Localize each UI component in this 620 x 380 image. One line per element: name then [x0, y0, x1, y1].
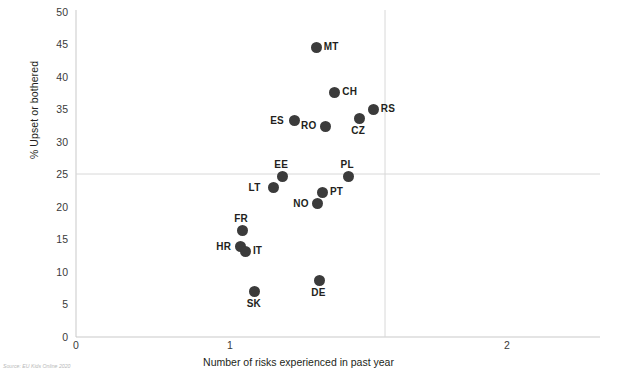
y-tick-10: 10: [34, 266, 68, 278]
data-point-rs[interactable]: [368, 104, 379, 115]
x-axis-label: Number of risks experienced in past year: [76, 356, 521, 368]
data-point-label-de: DE: [311, 287, 325, 298]
data-point-label-no: NO: [293, 198, 308, 209]
data-point-label-pl: PL: [341, 159, 354, 170]
data-point-pl[interactable]: [343, 171, 354, 182]
source-note: Source: EU Kids Online 2020: [3, 363, 70, 369]
data-point-de[interactable]: [314, 275, 325, 286]
data-point-sk[interactable]: [249, 286, 260, 297]
x-tick-0: 0: [61, 339, 91, 351]
y-tick-45: 45: [34, 38, 68, 50]
data-point-label-rs: RS: [381, 103, 395, 114]
data-point-label-mt: MT: [324, 41, 339, 52]
data-point-label-ro: RO: [301, 120, 316, 131]
data-point-label-es: ES: [270, 115, 284, 126]
data-point-label-sk: SK: [247, 298, 261, 309]
x-tick-1: 1: [215, 339, 245, 351]
y-tick-20: 20: [34, 201, 68, 213]
x-tick-2: 2: [492, 339, 522, 351]
data-point-ro[interactable]: [320, 121, 331, 132]
y-tick-30: 30: [34, 136, 68, 148]
y-tick-5: 5: [34, 298, 68, 310]
data-point-label-pt: PT: [330, 186, 343, 197]
data-point-mt[interactable]: [311, 42, 322, 53]
data-point-cz[interactable]: [354, 113, 365, 124]
data-point-label-ee: EE: [274, 159, 288, 170]
data-point-label-it: IT: [253, 245, 262, 256]
data-point-fr[interactable]: [237, 225, 248, 236]
data-point-label-hr: HR: [216, 241, 231, 252]
y-tick-35: 35: [34, 103, 68, 115]
data-point-pt[interactable]: [317, 187, 328, 198]
plot-area: [0, 0, 620, 380]
y-tick-25: 25: [34, 168, 68, 180]
data-point-it[interactable]: [240, 246, 251, 257]
data-point-label-cz: CZ: [351, 125, 365, 136]
scatter-chart: % Upset or bothered Number of risks expe…: [0, 0, 620, 380]
y-tick-40: 40: [34, 71, 68, 83]
data-point-label-ch: CH: [342, 86, 357, 97]
data-point-label-fr: FR: [234, 213, 248, 224]
data-point-ee[interactable]: [277, 171, 288, 182]
data-point-lt[interactable]: [268, 182, 279, 193]
y-tick-50: 50: [34, 6, 68, 18]
data-point-label-lt: LT: [249, 182, 261, 193]
y-tick-15: 15: [34, 233, 68, 245]
